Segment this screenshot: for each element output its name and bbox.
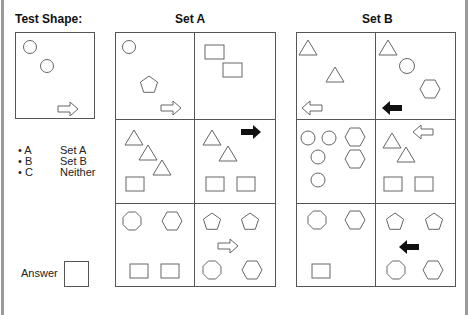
circle-icon: [301, 131, 315, 145]
arrow-right-icon: [161, 101, 181, 115]
triangle-icon: [203, 130, 221, 145]
triangle-icon: [383, 133, 401, 148]
arrow-left-solid-icon: [399, 240, 419, 254]
square-icon: [126, 177, 144, 191]
triangle-icon: [326, 67, 344, 82]
circle-icon: [311, 173, 325, 187]
square-icon: [223, 63, 242, 77]
set-a-cell-4: [203, 125, 261, 191]
set-a-cell-1: [123, 41, 182, 116]
arrow-left-solid-icon: [382, 101, 402, 115]
triangle-icon: [139, 145, 157, 160]
circle-icon: [24, 41, 37, 54]
triangle-icon: [125, 130, 143, 145]
set-b-cell-1: [299, 40, 344, 115]
arrow-right-icon: [58, 102, 78, 116]
square-icon: [237, 177, 255, 191]
shapes-layer: [0, 0, 469, 315]
pentagon-icon: [140, 76, 157, 92]
square-icon: [205, 45, 224, 59]
circle-icon: [123, 41, 136, 54]
set-b-cell-3: [301, 128, 365, 187]
hexagon-icon: [345, 150, 365, 168]
square-icon: [161, 264, 179, 278]
hexagon-icon: [345, 128, 365, 146]
triangle-icon: [153, 160, 171, 175]
square-icon: [415, 177, 433, 191]
pentagon-icon: [425, 213, 442, 229]
square-icon: [312, 264, 330, 278]
square-icon: [130, 264, 148, 278]
arrow-left-icon: [413, 125, 433, 139]
set-b-cell-5: [308, 211, 365, 278]
circle-icon: [41, 60, 54, 73]
set-b-cell-2: [379, 40, 440, 115]
pentagon-icon: [241, 213, 258, 229]
triangle-icon: [397, 147, 415, 162]
set-b-cell-6: [386, 213, 443, 279]
pentagon-icon: [203, 213, 220, 229]
octagon-icon: [123, 212, 141, 230]
set-b-cell-4: [383, 125, 433, 191]
octagon-icon: [308, 211, 326, 229]
octagon-icon: [387, 261, 405, 279]
pentagon-icon: [386, 213, 403, 229]
triangle-icon: [299, 40, 317, 55]
circle-icon: [322, 131, 336, 145]
test-shape-contents: [24, 41, 79, 117]
arrow-left-icon: [302, 101, 322, 115]
triangle-icon: [219, 146, 237, 161]
hexagon-icon: [420, 80, 440, 98]
set-a-cell-2: [205, 45, 242, 77]
octagon-icon: [203, 261, 221, 279]
square-icon: [384, 177, 402, 191]
hexagon-icon: [423, 261, 443, 279]
hexagon-icon: [242, 261, 262, 279]
arrow-right-solid-icon: [241, 125, 261, 139]
set-a-cell-5: [123, 212, 182, 278]
hexagon-icon: [345, 211, 365, 229]
set-a-cell-6: [203, 213, 262, 279]
circle-icon: [400, 59, 415, 74]
circle-icon: [311, 150, 325, 164]
triangle-icon: [379, 40, 397, 55]
arrow-right-icon: [218, 239, 238, 253]
hexagon-icon: [162, 212, 182, 230]
square-icon: [206, 177, 224, 191]
set-a-cell-3: [125, 130, 171, 191]
